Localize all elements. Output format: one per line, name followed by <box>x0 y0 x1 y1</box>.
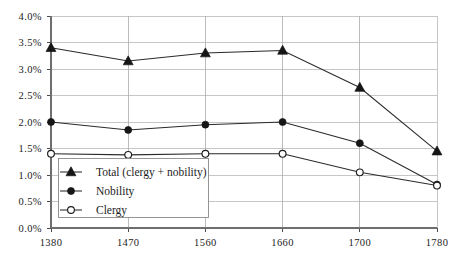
x-axis-tick-label: 1660 <box>271 237 294 248</box>
data-point-marker <box>434 182 441 189</box>
y-axis-tick-label: 1.5% <box>19 143 42 154</box>
y-axis-tick-label: 3.0% <box>19 64 42 75</box>
y-axis-tick-label: 3.5% <box>19 37 42 48</box>
data-point-marker <box>279 150 286 157</box>
y-axis-tick-labels: 0.0%0.5%1.0%1.5%2.0%2.5%3.0%3.5%4.0% <box>19 11 42 234</box>
x-axis-ticks <box>51 228 437 232</box>
y-axis-tick-label: 0.0% <box>19 223 42 234</box>
y-axis-tick-label: 4.0% <box>19 11 42 22</box>
data-point-marker <box>279 119 286 126</box>
y-axis-tick-label: 2.0% <box>19 117 42 128</box>
data-point-marker <box>432 146 442 155</box>
data-point-marker <box>125 126 132 133</box>
chart-canvas: 0.0%0.5%1.0%1.5%2.0%2.5%3.0%3.5%4.0% 138… <box>0 0 460 261</box>
y-axis-tick-label: 0.5% <box>19 196 42 207</box>
legend-item-label: Total (clergy + nobility) <box>96 166 207 179</box>
legend-item-label: Clergy <box>96 204 127 217</box>
x-axis-tick-label: 1560 <box>194 237 217 248</box>
x-axis-tick-label: 1780 <box>426 237 449 248</box>
data-point-marker <box>356 140 363 147</box>
line-chart: 0.0%0.5%1.0%1.5%2.0%2.5%3.0%3.5%4.0% 138… <box>0 0 460 261</box>
x-axis-tick-label: 1380 <box>40 237 63 248</box>
data-point-marker <box>200 48 210 57</box>
data-point-marker <box>278 45 288 54</box>
data-point-marker <box>356 169 363 176</box>
data-point-marker <box>125 151 132 158</box>
data-point-marker <box>48 150 55 157</box>
legend-swatch-marker <box>68 207 75 214</box>
data-point-marker <box>202 150 209 157</box>
y-axis-tick-label: 2.5% <box>19 90 42 101</box>
y-axis-tick-label: 1.0% <box>19 170 42 181</box>
series-line <box>51 48 437 151</box>
legend: Total (clergy + nobility)NobilityClergy <box>59 159 209 218</box>
data-point-marker <box>202 121 209 128</box>
legend-item-label: Nobility <box>96 185 135 198</box>
data-point-marker <box>46 43 56 52</box>
data-point-marker <box>48 119 55 126</box>
x-axis-tick-labels: 138014701560166017001780 <box>40 237 449 248</box>
legend-swatch-marker <box>68 188 75 195</box>
x-axis-tick-label: 1700 <box>348 237 371 248</box>
data-point-marker <box>355 82 365 91</box>
x-axis-tick-label: 1470 <box>117 237 140 248</box>
